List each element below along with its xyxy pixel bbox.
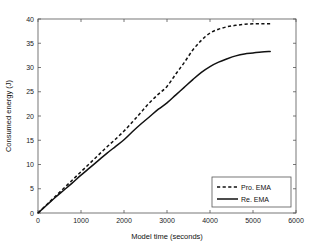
energy-consumption-chart: 0100020003000400050006000 05101520253035… [0, 0, 317, 247]
y-tick-label-8: 40 [26, 16, 34, 23]
y-tick-label-1: 5 [30, 185, 34, 192]
y-tick-label-7: 35 [26, 40, 34, 47]
x-axis-title: Model time (seconds) [131, 232, 203, 241]
x-tick-label-1: 1000 [73, 217, 89, 224]
y-tick-label-0: 0 [30, 210, 34, 217]
x-tick-label-4: 4000 [202, 217, 218, 224]
y-tick-label-2: 10 [26, 161, 34, 168]
y-tick-label-6: 30 [26, 64, 34, 71]
legend-label-0: Pro. EMA [241, 184, 271, 191]
x-tick-label-2: 2000 [116, 217, 132, 224]
x-tick-label-5: 5000 [245, 217, 261, 224]
y-axis-title: Consumed energy (J) [4, 79, 13, 152]
x-tick-label-3: 3000 [159, 217, 175, 224]
y-tick-label-5: 25 [26, 88, 34, 95]
y-tick-label-3: 15 [26, 137, 34, 144]
chart-legend: Pro. EMARe. EMA [212, 177, 291, 207]
x-tick-label-0: 0 [36, 217, 40, 224]
chart-background [0, 0, 317, 247]
legend-label-1: Re. EMA [241, 196, 269, 203]
y-tick-label-4: 20 [26, 113, 34, 120]
x-tick-label-6: 6000 [288, 217, 304, 224]
figure-container: 0100020003000400050006000 05101520253035… [0, 0, 317, 247]
